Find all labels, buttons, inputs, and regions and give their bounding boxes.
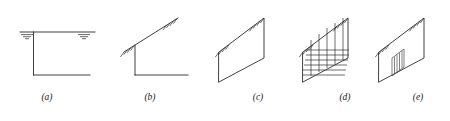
panel-a-support-right [78,35,90,39]
panel-e-panel-outline [379,18,424,82]
caption-a: (a) [41,92,52,103]
panel-d [299,18,349,82]
panel-c-panel-outline [219,18,264,82]
panel-a-support-left [21,35,33,39]
figure-plate: (a) (b) (c) (d) (e) [0,0,450,121]
caption-b: (b) [144,92,155,103]
panel-e [375,18,424,82]
caption-c: (c) [253,92,264,103]
panel-b [120,18,188,75]
panel-d-grid-horizontal [303,50,349,75]
diagram-canvas: (a) (b) (c) (d) (e) [0,0,450,121]
panel-a [20,32,95,75]
caption-e: (e) [413,92,424,103]
panel-c [215,18,264,82]
caption-d: (d) [339,92,350,103]
